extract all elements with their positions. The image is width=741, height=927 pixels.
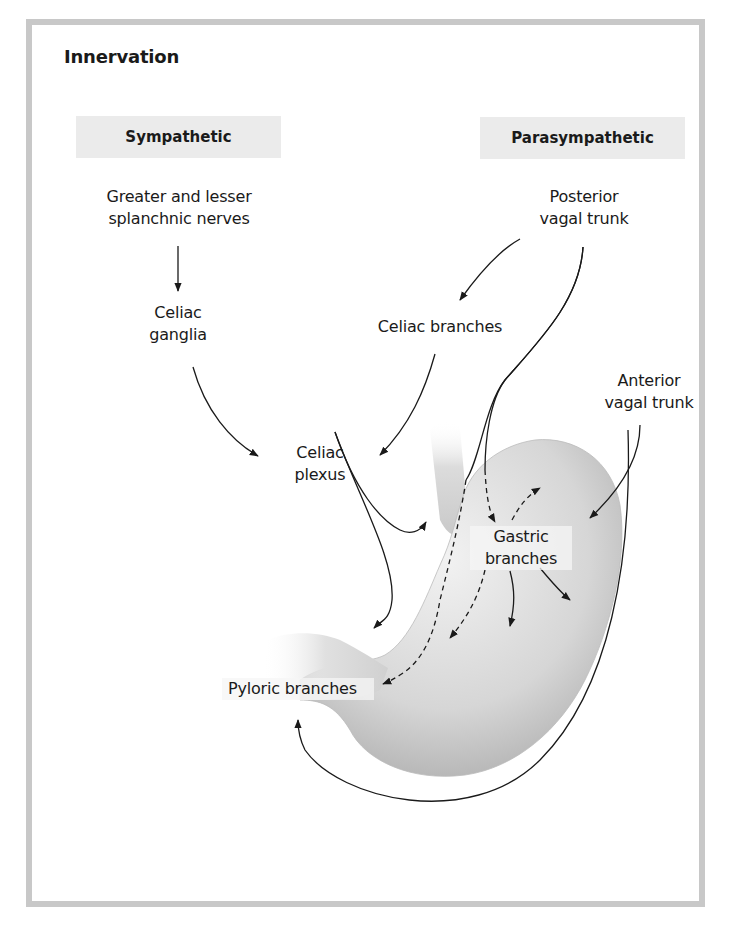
label-line: ganglia xyxy=(140,324,216,346)
celiac-branches-label: Celiac branches xyxy=(370,316,510,338)
anterior-vagal-trunk-label: Anterior vagal trunk xyxy=(594,370,704,414)
greater-lesser-splanchnic-label: Greater and lesser splanchnic nerves xyxy=(96,186,262,230)
label-line: vagal trunk xyxy=(594,392,704,414)
label-line: Gastric xyxy=(476,526,566,548)
label-line: splanchnic nerves xyxy=(96,208,262,230)
label-line: Posterior xyxy=(524,186,644,208)
label-line: plexus xyxy=(282,464,358,486)
posterior-vagal-trunk-label: Posterior vagal trunk xyxy=(524,186,644,230)
label-line: Anterior xyxy=(594,370,704,392)
innervation-diagram xyxy=(0,0,741,927)
label-line: branches xyxy=(476,548,566,570)
label-line: Greater and lesser xyxy=(96,186,262,208)
label-line: Celiac xyxy=(140,302,216,324)
label-line: vagal trunk xyxy=(524,208,644,230)
pyloric-branches-label: Pyloric branches xyxy=(222,678,374,700)
celiac-ganglia-label: Celiac ganglia xyxy=(140,302,216,346)
label-line: Celiac xyxy=(282,442,358,464)
celiac-plexus-label: Celiac plexus xyxy=(282,442,358,486)
gastric-branches-label: Gastric branches xyxy=(470,526,572,570)
